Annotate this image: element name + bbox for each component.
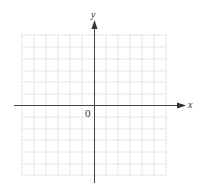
coordinate-plane (0, 0, 198, 184)
origin-label: 0 (85, 108, 91, 119)
axes (14, 28, 180, 183)
y-axis-label: y (91, 10, 95, 20)
y-axis-arrow-icon (92, 20, 98, 29)
x-axis-arrow-icon (177, 103, 186, 109)
x-axis-label: x (188, 100, 192, 110)
